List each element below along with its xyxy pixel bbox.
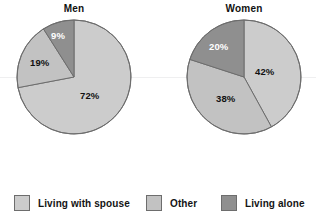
legend-label-living-alone: Living alone (245, 198, 305, 209)
legend-item-living-alone[interactable]: Living alone (221, 188, 305, 218)
pie-value-label-living-alone: 20% (209, 41, 228, 52)
chart-title-women: Women (212, 3, 276, 14)
chart-legend: Living with spouse Other Living alone (0, 188, 316, 218)
pie-chart-figure: Men Women 72%19%9% 42%38%20% Living with… (0, 0, 316, 223)
pie-chart-women (185, 18, 303, 136)
legend-item-other[interactable]: Other (146, 188, 197, 218)
legend-swatch-other (146, 195, 162, 211)
pie-value-label-living-with-spouse: 42% (255, 66, 274, 77)
pie-value-label-other: 38% (216, 93, 235, 104)
pie-chart-men (15, 18, 133, 136)
legend-label-other: Other (170, 198, 197, 209)
legend-item-living-with-spouse[interactable]: Living with spouse (14, 188, 130, 218)
legend-label-living-with-spouse: Living with spouse (38, 198, 130, 209)
pie-value-label-living-with-spouse: 72% (80, 90, 99, 101)
pie-value-label-other: 19% (30, 57, 49, 68)
pie-value-label-living-alone: 9% (51, 30, 65, 41)
legend-swatch-living-with-spouse (14, 195, 30, 211)
legend-swatch-living-alone (221, 195, 237, 211)
chart-title-men: Men (44, 3, 104, 14)
